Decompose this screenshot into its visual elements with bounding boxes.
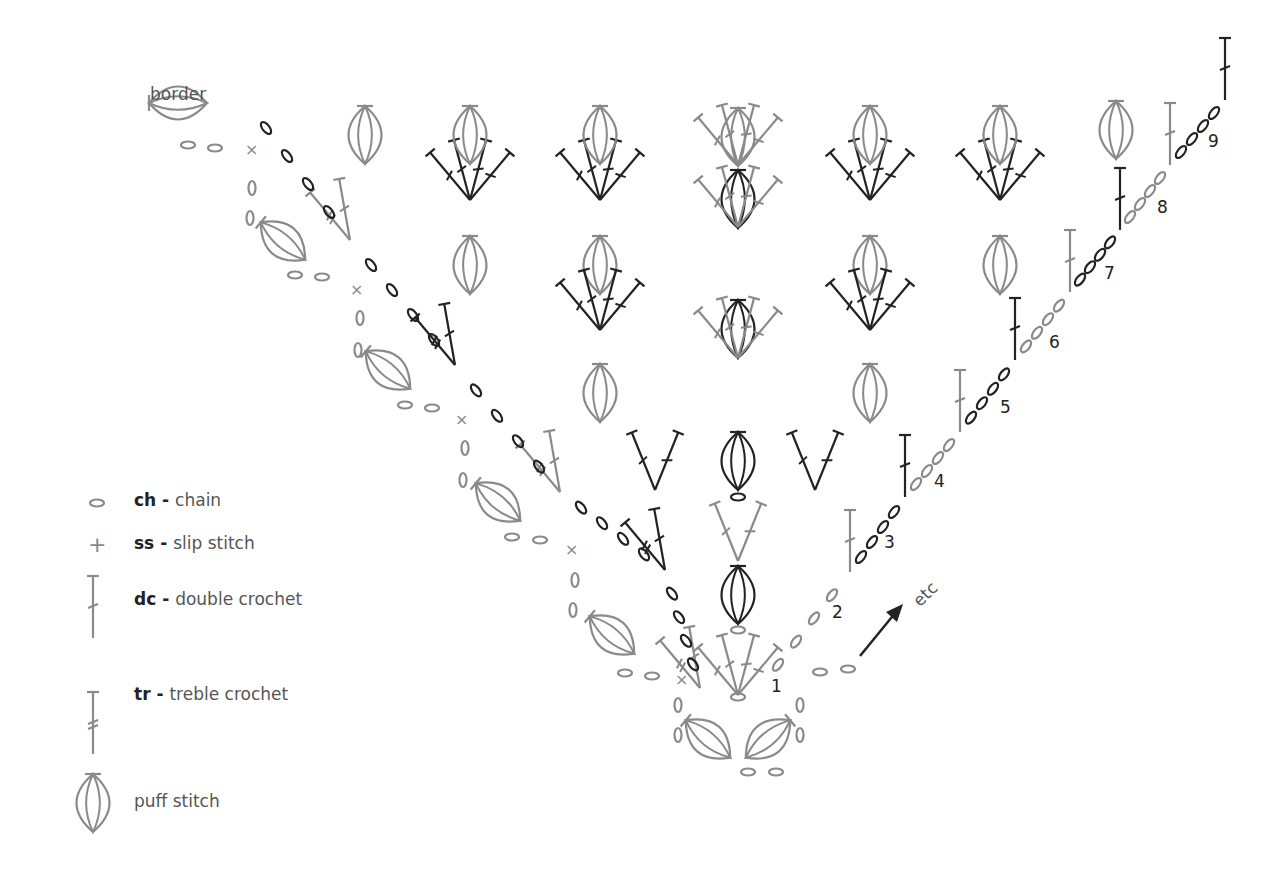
chain-icon: [807, 611, 821, 626]
chain-icon: [865, 534, 879, 549]
tr-stitch: [411, 314, 460, 369]
chain-icon: [797, 698, 804, 712]
dc-fan-stitch: [733, 176, 782, 231]
row-number-6: 6: [1049, 332, 1060, 352]
chain-icon: [90, 500, 104, 507]
dc-fan-stitch: [694, 176, 743, 231]
dc-fan-stitch: [733, 307, 782, 362]
chain-icon: [672, 610, 686, 625]
chain-icon: [675, 698, 682, 712]
chain-icon: [931, 450, 945, 465]
dc-stitch: [438, 303, 461, 366]
chain-icon: [315, 274, 329, 281]
puff-stitch-icon: [355, 339, 421, 402]
dc-fan-stitch: [733, 114, 782, 169]
chain-icon: [909, 476, 923, 491]
dc-fan-stitch: [694, 114, 743, 169]
chain-icon: [813, 669, 827, 676]
dc-stitch: [1009, 298, 1021, 360]
chain-icon: [920, 463, 934, 478]
row-number-7: 7: [1104, 263, 1115, 283]
slip-stitch-icon: ×: [350, 280, 363, 299]
chain-icon: [398, 402, 412, 409]
dc-stitch: [1219, 38, 1231, 100]
chain-icon: [1073, 272, 1087, 287]
chain-icon: [322, 204, 336, 219]
chain-icon: [511, 434, 525, 449]
chain-icon: [731, 694, 745, 701]
border-label: border: [150, 84, 206, 104]
dc-v-stitch: [786, 430, 820, 492]
dc-v-stitch: [809, 430, 843, 492]
chain-icon: [769, 769, 783, 776]
chain-icon: [1030, 325, 1044, 340]
chain-icon: [616, 531, 630, 546]
chain-icon: [1153, 170, 1167, 185]
row-number-5: 5: [1000, 397, 1011, 417]
legend-item-puff-stitch: puff stitch: [134, 791, 220, 811]
tr-stitch: [621, 519, 670, 574]
chain-icon: [665, 586, 679, 601]
chain-icon: [288, 272, 302, 279]
dc-fan-stitch: [694, 644, 743, 699]
chain-icon: [741, 769, 755, 776]
chain-icon: [942, 437, 956, 452]
chain-icon: [1041, 312, 1055, 327]
tr-stitch: [516, 441, 565, 496]
row-number-4: 4: [934, 471, 945, 491]
slip-stitch-icon: ×: [675, 670, 688, 689]
chain-icon: [887, 504, 901, 519]
chain-icon: [637, 547, 651, 562]
chain-icon: [570, 603, 577, 617]
chain-icon: [208, 145, 222, 152]
dc-v-stitch: [626, 430, 660, 492]
chain-icon: [574, 500, 588, 515]
dc-v-stitch: [732, 501, 766, 563]
slip-stitch-icon: ×: [245, 140, 258, 159]
chain-icon: [1185, 131, 1199, 146]
chain-icon: [357, 311, 364, 325]
dc-stitch: [648, 508, 671, 571]
chain-icon: [462, 441, 469, 455]
chain-icon: [355, 343, 362, 357]
legend-item-chain: ch - chain: [134, 490, 221, 510]
row-number-8: 8: [1157, 197, 1168, 217]
chain-icon: [460, 473, 467, 487]
chain-icon: [771, 657, 785, 672]
dc-stitch: [954, 370, 966, 432]
puff-stitch-icon: [984, 236, 1017, 294]
chain-icon: [1093, 247, 1107, 262]
dc-v-stitch: [709, 501, 743, 563]
legend-item-slip-stitch: ss - slip stitch: [134, 533, 255, 553]
chain-icon: [259, 120, 273, 135]
chain-icon: [964, 410, 978, 425]
chain-icon: [1019, 339, 1033, 354]
chain-icon: [1207, 105, 1221, 120]
slip-stitch-icon: ×: [455, 410, 468, 429]
chain-icon: [533, 537, 547, 544]
chain-icon: [425, 405, 439, 412]
chain-icon: [841, 666, 855, 673]
chain-icon: [301, 176, 315, 191]
chain-icon: [731, 494, 745, 501]
dc-stitch: [844, 510, 856, 572]
puff-stitch-icon: [579, 604, 645, 667]
chain-icon: [280, 148, 294, 163]
chain-icon: [1083, 260, 1097, 275]
chain-icon: [249, 181, 256, 195]
chain-icon: [675, 728, 682, 742]
puff-stitch-icon: [349, 106, 382, 164]
chain-icon: [975, 396, 989, 411]
chain-icon: [1133, 196, 1147, 211]
chain-icon: [1174, 144, 1188, 159]
chain-icon: [797, 728, 804, 742]
puff-stitch-icon: [250, 210, 316, 273]
slip-stitch-icon: ×: [565, 540, 578, 559]
chain-icon: [1123, 209, 1137, 224]
puff-stitch-icon: [722, 566, 755, 624]
chain-icon: [385, 282, 399, 297]
puff-stitch-icon: [675, 708, 741, 771]
dc-stitch: [1164, 103, 1176, 165]
chain-icon: [490, 408, 504, 423]
row-number-9: 9: [1208, 131, 1219, 151]
